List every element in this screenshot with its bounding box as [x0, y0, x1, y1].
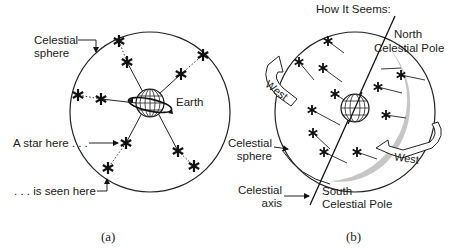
caption-b: (b): [346, 229, 361, 245]
panel-a: [70, 32, 230, 192]
star-icon: [319, 63, 328, 73]
label-line: sphere: [34, 47, 78, 60]
label-line: Celestial: [222, 137, 272, 150]
label-line: South: [322, 185, 392, 198]
star-icon: [173, 145, 183, 157]
label-north-pole-2: Celestial Pole: [374, 42, 444, 55]
star-icon: [122, 56, 132, 68]
label-north-pole-1: North: [394, 28, 422, 41]
label-celestial-sphere-a: Celestial sphere: [34, 34, 78, 60]
label-star-here: A star here . . .: [13, 137, 88, 150]
caption-a: (a): [101, 229, 115, 245]
star-icon: [308, 105, 317, 115]
star-icon: [73, 89, 83, 101]
earth-globe-icon: [341, 92, 369, 124]
star-icon: [176, 68, 186, 80]
star-icon: [309, 128, 318, 138]
label-line: axis: [230, 197, 282, 210]
star-icon: [331, 89, 340, 99]
label-celestial-axis: Celestial axis: [230, 184, 282, 210]
label-line: Celestial: [34, 34, 78, 47]
label-line: Celestial: [230, 184, 282, 197]
label-line: sphere: [222, 150, 272, 163]
label-line: Celestial Pole: [322, 198, 392, 211]
label-seen-here: . . . is seen here: [14, 185, 96, 198]
star-icon: [353, 147, 362, 157]
star-icon: [320, 147, 329, 157]
label-celestial-sphere-b: Celestial sphere: [222, 137, 272, 163]
star-icon: [121, 137, 131, 149]
star-icon: [189, 160, 199, 172]
label-south-pole: South Celestial Pole: [322, 185, 392, 211]
title-how-it-seems: How It Seems:: [316, 3, 391, 16]
star-icon: [374, 82, 383, 92]
label-earth: Earth: [176, 96, 204, 109]
